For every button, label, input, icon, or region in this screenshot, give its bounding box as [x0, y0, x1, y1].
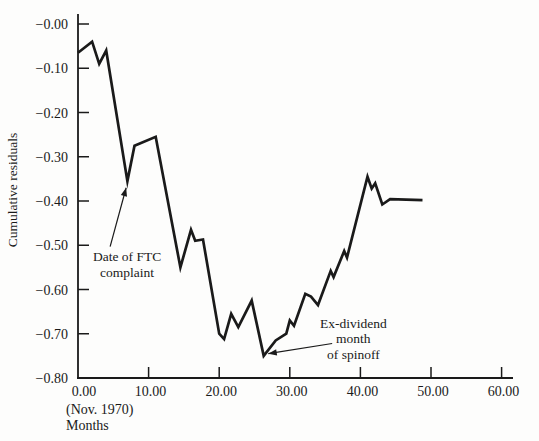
x-tick-label: 50.00: [417, 384, 449, 399]
x-axis-sub-label: (Nov. 1970): [66, 402, 134, 418]
annotations: Date of FTCcomplaintEx-dividendmonthof s…: [93, 188, 387, 362]
y-axis-title: Cumulative residuals: [5, 133, 20, 247]
annotation-spinoff-text: Ex-dividend: [320, 316, 387, 331]
y-tick-label: −0.50: [36, 238, 68, 253]
figure-cumulative-residuals: Cumulative residuals 0.0010.0020.0030.00…: [0, 0, 539, 441]
y-axis-ticks: −0.00−0.10−0.20−0.30−0.40−0.50−0.60−0.70…: [36, 17, 89, 386]
x-tick-label: 20.00: [205, 384, 237, 399]
y-tick-label: −0.70: [36, 327, 68, 342]
y-tick-label: −0.10: [36, 61, 68, 76]
y-tick-label: −0.60: [36, 283, 68, 298]
y-tick-label: −0.80: [36, 371, 68, 386]
annotation-spinoff-text: of spinoff: [327, 347, 380, 362]
x-axis-title: Months: [66, 418, 109, 433]
y-tick-label: −0.00: [36, 17, 68, 32]
x-tick-label: 30.00: [276, 384, 308, 399]
cumulative-residuals-line: [78, 42, 423, 356]
x-axis-ticks: 0.0010.0020.0030.0040.0050.0060.00: [72, 367, 520, 399]
annotation-spinoff-text: month: [336, 331, 371, 346]
annotation-spinoff-arrow: [268, 343, 332, 353]
x-tick-label: 60.00: [488, 384, 520, 399]
chart: Cumulative residuals 0.0010.0020.0030.00…: [0, 0, 539, 441]
x-tick-label: 40.00: [347, 384, 379, 399]
annotation-ftc-complaint-arrowhead: [121, 188, 127, 197]
y-tick-label: −0.40: [36, 194, 68, 209]
y-tick-label: −0.30: [36, 150, 68, 165]
y-tick-label: −0.20: [36, 106, 68, 121]
annotation-ftc-complaint-text: complaint: [100, 265, 154, 280]
series: [78, 42, 423, 356]
annotation-ftc-complaint-text: Date of FTC: [93, 249, 161, 264]
annotation-ftc-complaint-arrow: [110, 188, 126, 247]
x-tick-label: 0.00: [72, 384, 97, 399]
x-tick-label: 10.00: [135, 384, 167, 399]
